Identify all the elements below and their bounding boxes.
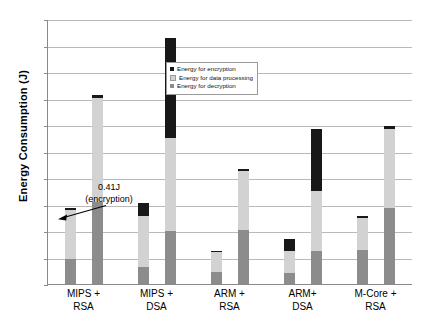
- x-axis-labels: MIPS +RSAMIPS +DSAARM +RSAARM+DSAM-Core …: [47, 288, 412, 313]
- legend-swatch-icon: [170, 84, 174, 88]
- legend-item: Energy for data processing: [170, 74, 253, 83]
- bar-segment-decryption: [165, 231, 176, 284]
- plot-area: 020406080100120140160180200: [47, 20, 412, 285]
- bar-group: [194, 20, 267, 284]
- bar-segment-decryption: [357, 250, 368, 284]
- bar-segment-encryption: [311, 129, 322, 191]
- annotation-arrow-icon: [56, 204, 108, 226]
- bars-container: [194, 20, 267, 284]
- x-axis-label: ARM +RSA: [193, 288, 266, 313]
- x-axis-label-line: DSA: [266, 301, 339, 314]
- x-axis-label: M-Core +RSA: [339, 288, 412, 313]
- bar-segment-decryption: [238, 230, 249, 284]
- x-axis-label: MIPS +RSA: [47, 288, 120, 313]
- bar-segment-decryption: [311, 251, 322, 284]
- bar-segment-decryption: [138, 267, 149, 284]
- bar-group: [266, 20, 339, 284]
- x-axis-label-line: MIPS +: [120, 288, 193, 301]
- x-axis-label-line: MIPS +: [47, 288, 120, 301]
- energy-consumption-chart: Energy Consumption (J) 02040608010012014…: [0, 0, 424, 332]
- x-axis-label-line: ARM+: [266, 288, 339, 301]
- bar-segment-data-processing: [384, 129, 395, 209]
- x-axis-label-line: RSA: [47, 301, 120, 314]
- x-axis-label-line: DSA: [120, 301, 193, 314]
- stacked-bar[interactable]: [357, 216, 368, 284]
- legend-label: Energy for encryption: [177, 65, 236, 74]
- bars-container: [121, 20, 194, 284]
- bar-segment-data-processing: [284, 251, 295, 274]
- bar-group: [48, 20, 121, 284]
- bar-group: [339, 20, 412, 284]
- x-axis-label-line: M-Core +: [339, 288, 412, 301]
- y-axis-title: Energy Consumption (J): [17, 51, 29, 221]
- stacked-bar[interactable]: [138, 203, 149, 284]
- stacked-bar[interactable]: [311, 129, 322, 284]
- bar-segment-data-processing: [138, 216, 149, 267]
- x-axis-label: MIPS +DSA: [120, 288, 193, 313]
- bar-segment-decryption: [384, 208, 395, 284]
- y-tick-mark: [44, 285, 48, 286]
- bars-container: [339, 20, 412, 284]
- stacked-bar[interactable]: [211, 251, 222, 284]
- legend-label: Energy for data processing: [179, 74, 253, 83]
- bar-segment-decryption: [65, 259, 76, 284]
- chart-legend: Energy for encryptionEnergy for data pro…: [166, 62, 258, 95]
- x-axis-label-line: ARM +: [193, 288, 266, 301]
- bar-groups: [48, 20, 412, 284]
- legend-item: Energy for decryption: [170, 82, 253, 91]
- bar-segment-data-processing: [165, 138, 176, 231]
- x-axis-label-line: RSA: [193, 301, 266, 314]
- bar-segment-data-processing: [211, 252, 222, 272]
- bar-segment-encryption: [284, 239, 295, 251]
- bar-group: [121, 20, 194, 284]
- legend-swatch-icon: [170, 67, 174, 71]
- bars-container: [266, 20, 339, 284]
- bar-segment-data-processing: [238, 171, 249, 230]
- legend-label: Energy for decryption: [177, 82, 236, 91]
- bar-segment-decryption: [284, 273, 295, 284]
- bar-segment-decryption: [211, 272, 222, 284]
- legend-item: Energy for encryption: [170, 65, 253, 74]
- annotation-label: 0.41J(encryption): [72, 182, 146, 205]
- annotation-line: 0.41J: [72, 182, 146, 194]
- stacked-bar[interactable]: [384, 126, 395, 284]
- x-axis-label: ARM+DSA: [266, 288, 339, 313]
- bar-segment-data-processing: [357, 218, 368, 250]
- x-axis-label-line: RSA: [339, 301, 412, 314]
- stacked-bar[interactable]: [284, 239, 295, 284]
- legend-swatch-icon: [170, 75, 176, 81]
- bar-segment-data-processing: [311, 191, 322, 251]
- stacked-bar[interactable]: [238, 169, 249, 284]
- bars-container: [48, 20, 121, 284]
